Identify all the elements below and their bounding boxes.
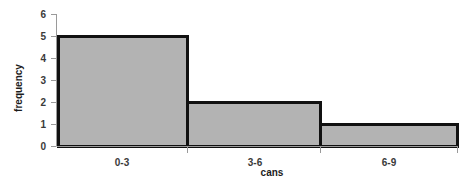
x-tick-label-6-9: 6-9: [382, 157, 397, 168]
bar-6-9: [320, 124, 457, 146]
x-axis-title: cans: [261, 167, 284, 178]
y-tick-label-1: 1: [40, 119, 46, 130]
bar-0-3: [58, 36, 187, 146]
y-tick-label-2: 2: [40, 97, 46, 108]
x-tick-label-0-3: 0-3: [115, 157, 130, 168]
y-tick-label-0: 0: [40, 141, 46, 152]
chart-canvas: 6 5 4 3 2 1 0 frequency 0-3 3-6 6-9 cans: [0, 0, 473, 181]
y-tick-label-4: 4: [40, 53, 46, 64]
histogram-chart: 6 5 4 3 2 1 0 frequency 0-3 3-6 6-9 cans: [0, 0, 473, 181]
y-tick-label-3: 3: [40, 75, 46, 86]
y-axis-title: frequency: [13, 64, 24, 112]
y-tick-label-6: 6: [40, 9, 46, 20]
y-tick-label-5: 5: [40, 31, 46, 42]
bar-3-6: [187, 102, 320, 146]
